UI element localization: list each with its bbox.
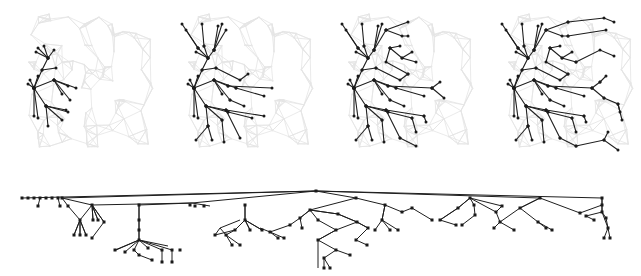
tree-node: [501, 205, 504, 208]
tree-node: [161, 249, 164, 252]
stage-4-panel: [501, 13, 634, 151]
tree-node: [39, 197, 42, 200]
tree-node: [374, 229, 377, 232]
tree-node: [261, 229, 264, 232]
tree-node: [269, 231, 272, 234]
tree-node: [461, 224, 464, 227]
tree-node: [593, 219, 596, 222]
tree-node: [189, 204, 192, 207]
tree-node: [92, 219, 95, 222]
tree-node: [545, 227, 548, 230]
tree-node: [61, 197, 64, 200]
tree-node: [389, 229, 392, 232]
stage-2-panel: [181, 13, 314, 147]
tree-node: [67, 205, 70, 208]
tree-node: [585, 215, 588, 218]
tree-node: [33, 197, 36, 200]
tree-node: [97, 219, 100, 222]
tree-node: [601, 204, 604, 207]
tree-node: [79, 234, 82, 237]
tree-node: [138, 239, 141, 242]
tree-node: [457, 207, 460, 210]
tree-node: [45, 197, 48, 200]
tree-node: [335, 229, 338, 232]
tree-node: [289, 224, 292, 227]
hierarchy-root-node: [315, 190, 318, 193]
tree-node: [27, 197, 30, 200]
tree-node: [277, 237, 280, 240]
tree-node: [203, 205, 206, 208]
tree-node: [495, 211, 498, 214]
spanning-tree: [27, 45, 78, 128]
root-node: [352, 86, 356, 90]
tree-node: [513, 229, 516, 232]
tree-node: [537, 221, 540, 224]
tree-node: [138, 219, 141, 222]
tree-node: [147, 247, 150, 250]
tree-node: [91, 237, 94, 240]
root-node: [192, 86, 196, 90]
tree-node: [138, 204, 141, 207]
tree-node: [607, 227, 610, 230]
tree-node: [603, 237, 606, 240]
tree-node: [91, 204, 94, 207]
tree-node: [605, 217, 608, 220]
tree-node: [194, 205, 197, 208]
hierarchical-tree: [21, 190, 612, 270]
tree-growth-panels: [27, 13, 634, 151]
tree-node: [309, 209, 312, 212]
tree-node: [335, 249, 338, 252]
tree-node: [337, 213, 340, 216]
tree-node: [299, 217, 302, 220]
tree-node: [124, 251, 127, 254]
tree-node: [455, 224, 458, 227]
spanning-tree: [501, 17, 624, 152]
tree-node: [138, 229, 141, 232]
tree-node: [301, 227, 304, 230]
tree-node: [21, 197, 24, 200]
tree-node: [234, 229, 237, 232]
tree-node: [349, 254, 352, 257]
tree-node: [473, 204, 476, 207]
tree-node: [601, 197, 604, 200]
tree-node: [323, 257, 326, 260]
tree-node: [249, 229, 252, 232]
tree-node: [551, 229, 554, 232]
tree-node: [179, 249, 182, 252]
tree-node: [355, 197, 358, 200]
background-network: [28, 13, 153, 147]
tree-node: [214, 234, 217, 237]
tree-node: [171, 261, 174, 264]
tree-node: [225, 234, 228, 237]
tree-node: [239, 244, 242, 247]
tree-node: [59, 205, 62, 208]
tree-node: [401, 211, 404, 214]
tree-node: [539, 197, 542, 200]
tree-node: [51, 197, 54, 200]
tree-node: [384, 204, 387, 207]
tree-node: [57, 197, 60, 200]
tree-node: [317, 219, 320, 222]
root-node: [512, 86, 516, 90]
tree-node: [431, 219, 434, 222]
tree-node: [161, 261, 164, 264]
tree-node: [79, 219, 82, 222]
tree-node: [151, 259, 154, 262]
tree-node: [355, 239, 358, 242]
tree-node: [329, 267, 332, 270]
tree-node: [499, 221, 502, 224]
tree-node: [366, 244, 369, 247]
tree-node: [519, 207, 522, 210]
network-figure: [0, 0, 641, 276]
tree-node: [133, 249, 136, 252]
tree-node: [601, 211, 604, 214]
tree-node: [439, 219, 442, 222]
root-node: [32, 86, 36, 90]
tree-node: [367, 227, 370, 230]
tree-node: [171, 249, 174, 252]
tree-node: [244, 219, 247, 222]
stage-1-panel: [27, 13, 154, 147]
tree-node: [283, 237, 286, 240]
tree-node: [85, 234, 88, 237]
tree-node: [73, 234, 76, 237]
